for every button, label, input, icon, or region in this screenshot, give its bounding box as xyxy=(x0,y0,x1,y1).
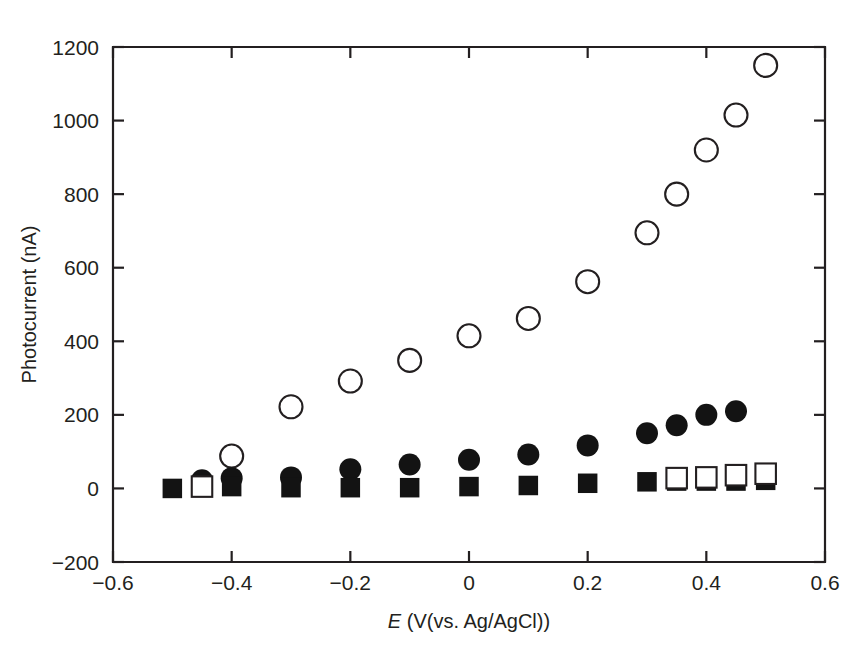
filled-circles-point-4 xyxy=(399,454,421,476)
filled-circles-point-7 xyxy=(577,434,599,456)
y-tick-label-1: 0 xyxy=(87,477,99,500)
open-circles-point-6 xyxy=(576,270,599,293)
open-circles-point-8 xyxy=(665,183,688,206)
filled-circles-point-5 xyxy=(458,449,480,471)
filled-squares-point-5 xyxy=(459,477,479,497)
x-axis-title-units: (V(vs. Ag/AgCl)) xyxy=(401,610,550,632)
open-circles-point-10 xyxy=(725,104,748,127)
open-circles-point-3 xyxy=(398,349,421,372)
y-tick-label-5: 800 xyxy=(64,183,99,206)
filled-circles-point-11 xyxy=(725,400,747,422)
filled-squares-point-0 xyxy=(163,479,183,499)
open-squares-point-1 xyxy=(666,468,687,489)
x-tick-label-0: −0.6 xyxy=(92,571,133,594)
photocurrent-scatter-chart: −200020040060080010001200−0.6−0.4−0.200.… xyxy=(0,0,865,659)
filled-circles-point-3 xyxy=(339,458,361,480)
open-circles-point-4 xyxy=(458,324,481,347)
y-tick-label-3: 400 xyxy=(64,330,99,353)
filled-squares-point-7 xyxy=(578,474,598,494)
filled-squares-point-2 xyxy=(281,478,301,498)
filled-circles-point-10 xyxy=(695,404,717,426)
x-tick-label-2: −0.2 xyxy=(330,571,371,594)
open-circles-point-5 xyxy=(517,307,540,330)
y-tick-label-2: 200 xyxy=(64,403,99,426)
filled-circles-point-6 xyxy=(517,444,539,466)
open-squares-point-4 xyxy=(755,463,776,484)
open-circles-point-2 xyxy=(339,370,362,393)
open-circles-point-9 xyxy=(695,139,718,162)
open-circles-point-11 xyxy=(754,54,777,77)
filled-squares-point-8 xyxy=(637,472,657,492)
filled-squares-point-4 xyxy=(400,478,420,498)
open-circles-point-1 xyxy=(280,395,303,418)
x-tick-label-1: −0.4 xyxy=(211,571,253,594)
x-axis-title: E (V(vs. Ag/AgCl)) xyxy=(388,610,550,632)
filled-circles-point-8 xyxy=(636,422,658,444)
filled-circles-point-9 xyxy=(666,414,688,436)
open-circles-point-7 xyxy=(636,221,659,244)
filled-squares-point-1 xyxy=(222,477,242,497)
y-tick-label-4: 600 xyxy=(64,256,99,279)
y-tick-label-6: 1000 xyxy=(52,109,99,132)
x-tick-label-5: 0.4 xyxy=(692,571,722,594)
open-squares-point-3 xyxy=(726,465,747,486)
filled-squares-point-6 xyxy=(519,476,539,496)
open-squares-point-0 xyxy=(192,476,213,497)
y-tick-label-7: 1200 xyxy=(52,36,99,59)
x-axis-title-symbol: E xyxy=(388,610,402,632)
open-squares-point-2 xyxy=(696,467,717,488)
y-axis-title: Photocurrent (nA) xyxy=(18,226,40,384)
open-circles-point-0 xyxy=(220,445,243,468)
figure-container: −200020040060080010001200−0.6−0.4−0.200.… xyxy=(0,0,865,659)
x-tick-label-3: 0 xyxy=(463,571,475,594)
filled-squares-point-3 xyxy=(341,478,361,498)
x-tick-label-6: 0.6 xyxy=(810,571,839,594)
x-tick-label-4: 0.2 xyxy=(573,571,602,594)
